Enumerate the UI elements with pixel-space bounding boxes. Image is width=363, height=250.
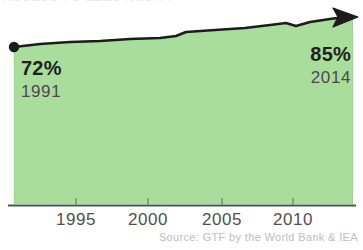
x-tick-label-1995: 1995: [56, 210, 96, 230]
source-credit: Source: GTF by the World Bank & IEA: [159, 231, 358, 243]
area-fill-series: [14, 17, 353, 204]
end-value-label: 85%: [310, 44, 351, 64]
chart-figure: ACCESS TO ELECTRICITY 72% 1991 85% 2014: [0, 0, 363, 250]
x-tick-label-2010: 2010: [273, 210, 313, 230]
end-value-annotation: 85% 2014: [310, 44, 351, 86]
start-value-annotation: 72% 1991: [21, 58, 62, 100]
x-tick-label-2005: 2005: [202, 210, 242, 230]
end-year-label: 2014: [310, 69, 351, 86]
start-point-marker: [9, 42, 19, 52]
start-year-label: 1991: [21, 83, 62, 100]
x-tick-label-2000: 2000: [128, 210, 168, 230]
start-value-label: 72%: [21, 58, 62, 78]
